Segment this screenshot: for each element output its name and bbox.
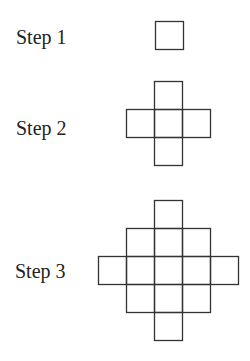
square (183, 229, 211, 257)
square (211, 257, 239, 285)
step-2-squares (127, 82, 211, 166)
square (127, 257, 155, 285)
step-3-squares (99, 201, 239, 341)
step-1-squares (156, 22, 184, 50)
square (155, 82, 183, 110)
square (155, 257, 183, 285)
square (155, 313, 183, 341)
square-pattern-figure (0, 0, 250, 361)
square (127, 110, 155, 138)
square (127, 229, 155, 257)
square (183, 285, 211, 313)
square (99, 257, 127, 285)
square (155, 138, 183, 166)
square (127, 285, 155, 313)
square (155, 285, 183, 313)
square (183, 110, 211, 138)
square (155, 201, 183, 229)
square (155, 229, 183, 257)
square (155, 110, 183, 138)
square (183, 257, 211, 285)
square (156, 22, 184, 50)
